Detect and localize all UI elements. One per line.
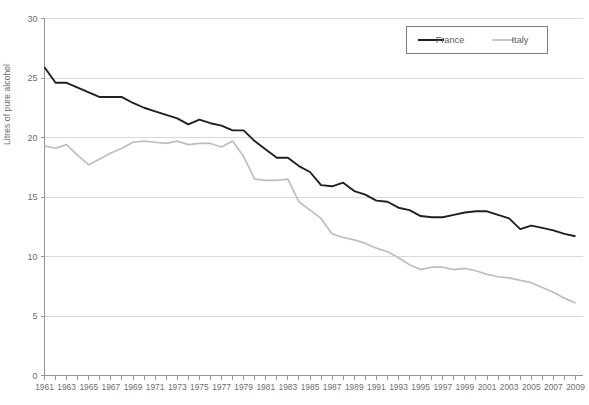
x-tick-label-1975: 1975 <box>190 382 209 392</box>
y-tick-label-10: 10 <box>27 252 37 262</box>
x-tick-label-2005: 2005 <box>522 382 541 392</box>
legend-label-france: France <box>436 35 465 45</box>
y-tick-label-15: 15 <box>27 192 37 202</box>
x-tick-label-1963: 1963 <box>57 382 76 392</box>
chart-legend: FranceItaly <box>407 27 548 54</box>
x-tick-label-1993: 1993 <box>389 382 408 392</box>
chart-plot-area: 051015202530 196119631965196719691971197… <box>0 0 589 405</box>
x-tick-label-1995: 1995 <box>411 382 430 392</box>
legend-label-italy: Italy <box>512 35 529 45</box>
x-tick-label-1987: 1987 <box>323 382 342 392</box>
x-tick-label-1979: 1979 <box>234 382 253 392</box>
x-tick-label-1981: 1981 <box>256 382 275 392</box>
x-tick-label-1967: 1967 <box>102 382 121 392</box>
x-tick-label-2009: 2009 <box>566 382 585 392</box>
x-tick-label-1973: 1973 <box>168 382 187 392</box>
x-tick-label-1971: 1971 <box>146 382 165 392</box>
series-line-italy <box>45 141 576 303</box>
x-tick-label-1969: 1969 <box>124 382 143 392</box>
x-tick-label-2003: 2003 <box>500 382 519 392</box>
y-tick-label-30: 30 <box>27 14 37 24</box>
gridlines <box>45 19 584 376</box>
x-tick-label-1989: 1989 <box>345 382 364 392</box>
x-tick-label-1985: 1985 <box>301 382 320 392</box>
y-tick-label-20: 20 <box>27 133 37 143</box>
y-axis-ticks: 051015202530 <box>27 14 44 381</box>
x-tick-label-1965: 1965 <box>79 382 98 392</box>
x-axis-ticks: 1961196319651967196919711973197519771979… <box>35 376 585 393</box>
x-tick-label-2007: 2007 <box>544 382 563 392</box>
x-tick-label-1999: 1999 <box>456 382 475 392</box>
x-tick-label-1997: 1997 <box>433 382 452 392</box>
x-tick-label-2001: 2001 <box>478 382 497 392</box>
y-tick-label-5: 5 <box>32 311 37 321</box>
data-series <box>45 67 576 303</box>
x-tick-label-1977: 1977 <box>212 382 231 392</box>
y-tick-label-0: 0 <box>32 371 37 381</box>
x-tick-label-1983: 1983 <box>279 382 298 392</box>
alcohol-consumption-line-chart: Litres of pure alcohol 051015202530 1961… <box>0 0 589 405</box>
y-tick-label-25: 25 <box>27 73 37 83</box>
x-tick-label-1991: 1991 <box>367 382 386 392</box>
x-tick-label-1961: 1961 <box>35 382 54 392</box>
